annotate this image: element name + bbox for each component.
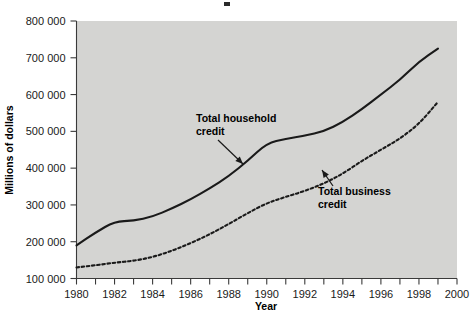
top-artifact-mark	[224, 2, 230, 6]
x-tick-label: 1996	[369, 288, 393, 300]
x-axis-tick-labels: 1980198219841986198819901992199419961998…	[64, 288, 469, 300]
plot-area-background	[76, 21, 457, 278]
x-axis-title: Year	[255, 300, 277, 312]
y-tick-label: 800 000	[26, 15, 66, 27]
y-tick-label: 100 000	[26, 273, 66, 285]
y-axis-ticks	[71, 21, 77, 279]
annotation-label-line1: Total business	[318, 185, 391, 197]
y-tick-label: 500 000	[26, 125, 66, 137]
y-tick-label: 600 000	[26, 89, 66, 101]
credit-trends-line-chart: 100 000200 000300 000400 000500 000600 0…	[0, 0, 475, 331]
y-tick-label: 700 000	[26, 52, 66, 64]
x-tick-label: 1980	[64, 288, 88, 300]
y-tick-label: 300 000	[26, 199, 66, 211]
annotation-label-line2: credit	[196, 125, 225, 137]
x-tick-label: 1986	[178, 288, 202, 300]
annotation-label-line2: credit	[318, 198, 347, 210]
x-tick-label: 1994	[331, 288, 355, 300]
x-tick-label: 1984	[140, 288, 164, 300]
chart-figure: 100 000200 000300 000400 000500 000600 0…	[0, 0, 475, 331]
x-tick-label: 1992	[293, 288, 317, 300]
y-axis-tick-labels: 100 000200 000300 000400 000500 000600 0…	[26, 15, 66, 285]
x-tick-label: 1990	[255, 288, 279, 300]
y-tick-label: 400 000	[26, 162, 66, 174]
x-tick-label: 1998	[407, 288, 431, 300]
x-tick-label: 1988	[216, 288, 240, 300]
annotation-label-line1: Total household	[196, 112, 276, 124]
x-tick-label: 2000	[445, 288, 469, 300]
x-tick-label: 1982	[102, 288, 126, 300]
y-tick-label: 200 000	[26, 236, 66, 248]
y-axis-title: Millions of dollars	[3, 105, 15, 194]
x-axis-ticks	[77, 279, 458, 285]
